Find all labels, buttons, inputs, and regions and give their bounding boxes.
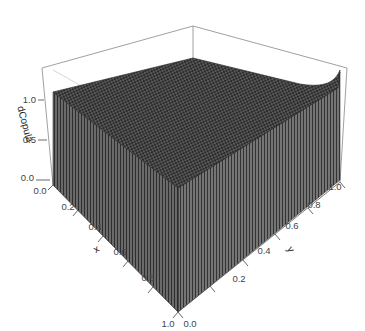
x-tick-0.6: 0.6 bbox=[113, 246, 126, 257]
x-tick-0.2: 0.2 bbox=[61, 201, 74, 212]
y-tick-1.0: 1.0 bbox=[328, 181, 341, 192]
x-tick-0.0: 0.0 bbox=[33, 185, 46, 196]
x-tick-0.4: 0.4 bbox=[88, 221, 101, 232]
x-tick-0.8: 0.8 bbox=[141, 272, 154, 283]
surface-plot: 1.0 0.5 0.0 dCopula 0.0 0.2 0.4 0.6 0.8 … bbox=[0, 0, 365, 331]
y-tick-0.6: 0.6 bbox=[285, 220, 298, 231]
z-tick-0.0: 0.0 bbox=[21, 172, 34, 183]
x-axis-label: x bbox=[91, 243, 101, 255]
z-axis-label: dCopula bbox=[15, 105, 35, 144]
x-tick-1.0: 1.0 bbox=[161, 318, 174, 329]
y-tick-0.8: 0.8 bbox=[307, 199, 320, 210]
z-tick-1.0: 1.0 bbox=[23, 94, 36, 105]
y-tick-0.4: 0.4 bbox=[257, 245, 270, 256]
y-tick-0.0: 0.0 bbox=[183, 318, 196, 329]
z-axis: 1.0 0.5 0.0 dCopula bbox=[15, 94, 50, 183]
y-axis-label: y bbox=[285, 244, 297, 254]
y-tick-0.2: 0.2 bbox=[232, 273, 245, 284]
